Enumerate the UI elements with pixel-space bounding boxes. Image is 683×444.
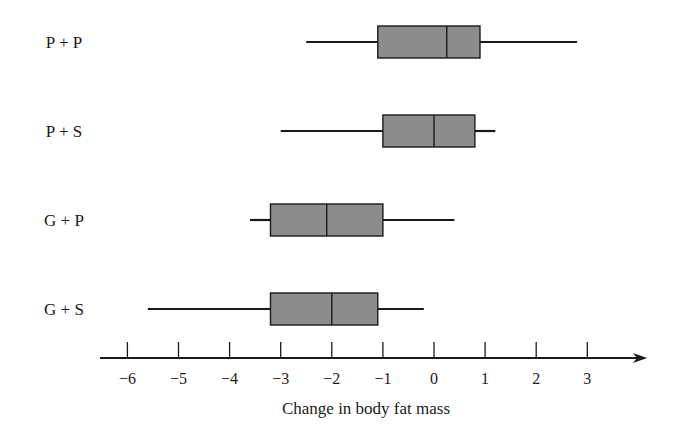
tick-label: 2 — [532, 370, 540, 387]
chart-canvas: −6−5−4−3−2−10123 Change in body fat mass… — [0, 0, 683, 444]
category-label: G + P — [44, 211, 84, 230]
x-tick: −4 — [221, 342, 238, 387]
tick-label: 1 — [481, 370, 489, 387]
tick-label: −2 — [323, 370, 340, 387]
x-tick: −6 — [119, 342, 136, 387]
x-tick: 3 — [583, 342, 591, 387]
category-label: P + S — [46, 122, 82, 141]
iqr-box — [383, 115, 475, 147]
tick-label: −4 — [221, 370, 238, 387]
tick-label: 3 — [583, 370, 591, 387]
tick-label: 0 — [430, 370, 438, 387]
boxplot-gp — [250, 204, 454, 236]
x-tick: 0 — [430, 342, 438, 387]
x-tick: −2 — [323, 342, 340, 387]
boxplot-chart: −6−5−4−3−2−10123 Change in body fat mass… — [0, 0, 683, 444]
x-tick: −3 — [272, 342, 289, 387]
boxes-layer — [148, 26, 577, 325]
boxplot-pp — [306, 26, 577, 58]
x-axis: −6−5−4−3−2−10123 Change in body fat mass — [100, 342, 645, 418]
x-axis-title: Change in body fat mass — [282, 399, 450, 418]
x-tick: 1 — [481, 342, 489, 387]
tick-label: −3 — [272, 370, 289, 387]
x-axis-ticks: −6−5−4−3−2−10123 — [119, 342, 591, 387]
x-tick: 2 — [532, 342, 540, 387]
boxplot-ps — [281, 115, 496, 147]
x-tick: −1 — [374, 342, 391, 387]
tick-label: −6 — [119, 370, 136, 387]
iqr-box — [378, 26, 480, 58]
tick-label: −1 — [374, 370, 391, 387]
category-label: P + P — [46, 33, 82, 52]
x-tick: −5 — [170, 342, 187, 387]
tick-label: −5 — [170, 370, 187, 387]
boxplot-gs — [148, 293, 424, 325]
iqr-box — [270, 293, 377, 325]
category-labels: P + PP + SG + PG + S — [44, 33, 84, 319]
category-label: G + S — [44, 300, 84, 319]
